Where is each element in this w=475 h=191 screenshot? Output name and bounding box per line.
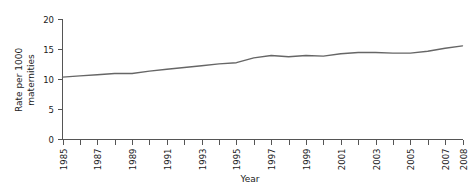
- y-axis-title-line1: Rate per 1000: [14, 48, 24, 112]
- x-tick-label-1993: 1993: [198, 149, 208, 171]
- x-tick-label-2001: 2001: [337, 149, 347, 171]
- y-tick-label-20: 20: [43, 15, 54, 25]
- x-axis-ticks: 1985198719891991199319951997199920012003…: [59, 140, 469, 171]
- x-tick-label-1995: 1995: [232, 149, 242, 171]
- y-tick-label-10: 10: [43, 75, 54, 85]
- y-tick-label-0: 0: [49, 135, 54, 145]
- x-tick-label-2003: 2003: [372, 149, 382, 171]
- x-tick-label-1999: 1999: [302, 149, 312, 171]
- y-tick-label-15: 15: [43, 45, 54, 55]
- x-tick-label-1987: 1987: [93, 149, 103, 171]
- chart-figure: Rate per 1000 maternities 0 5 10 15 20 1…: [0, 0, 475, 191]
- x-axis-title: Year: [239, 174, 259, 184]
- y-axis-title-line2: maternities: [26, 54, 36, 106]
- x-tick-label-1989: 1989: [128, 149, 138, 171]
- y-axis-ticks: 0 5 10 15 20: [43, 15, 62, 145]
- x-tick-label-2005: 2005: [406, 149, 416, 171]
- y-axis-title: Rate per 1000 maternities: [14, 48, 36, 112]
- x-tick-label-1997: 1997: [267, 149, 277, 171]
- data-series-line: [63, 46, 463, 77]
- line-chart-plot: Rate per 1000 maternities 0 5 10 15 20 1…: [0, 0, 475, 191]
- y-tick-label-5: 5: [49, 105, 54, 115]
- x-tick-label-2008: 2008: [459, 149, 469, 171]
- x-tick-label-1991: 1991: [163, 149, 173, 171]
- x-tick-label-2007: 2007: [441, 149, 451, 171]
- x-tick-label-1985: 1985: [59, 149, 69, 171]
